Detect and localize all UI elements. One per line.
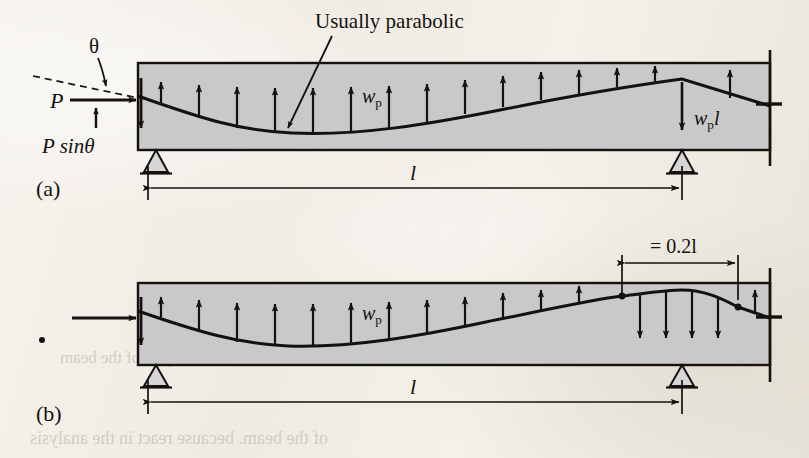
label-P-sin-theta-a: P sinθ [42, 136, 95, 157]
label-force-P-a: P [50, 90, 63, 112]
support-b-left [140, 365, 172, 388]
inflection-point-right-b [735, 304, 742, 311]
label-wpl-length-a: l [714, 107, 720, 129]
label-wp-subscript-a: p [375, 95, 382, 110]
label-wpl-subscript-a: p [707, 117, 714, 132]
label-wpl-symbol-a: w [694, 107, 707, 129]
label-wp-b: wp [362, 303, 382, 326]
label-P-sin-theta-text-a: P sinθ [42, 134, 95, 158]
tendon-tangent-dashed-a [33, 76, 138, 98]
label-wp-symbol-a: w [362, 85, 375, 107]
label-span-b: l [410, 376, 416, 398]
panel-label-a: (a) [36, 178, 60, 200]
figure-page: Silhouette hand in the analysis of the b… [0, 0, 809, 458]
theta-leader-a [98, 58, 106, 86]
scan-speck [39, 337, 45, 343]
panel-a [33, 36, 782, 200]
annotation-usually-parabolic: Usually parabolic [315, 11, 464, 32]
label-wpl-a: wpl [694, 108, 720, 131]
label-theta-a: θ [89, 36, 99, 57]
panel-label-b: (b) [36, 403, 62, 425]
support-a-left [140, 150, 172, 174]
label-span-a: l [410, 162, 416, 184]
label-wp-symbol-b: w [362, 302, 375, 324]
beam-b-body [138, 283, 770, 365]
label-wp-a: wp [362, 86, 382, 109]
figure-canvas [0, 0, 809, 458]
label-cap-dimension-b: = 0.2l [650, 236, 697, 256]
beam-a-body [138, 63, 770, 150]
label-wp-subscript-b: p [375, 312, 382, 327]
